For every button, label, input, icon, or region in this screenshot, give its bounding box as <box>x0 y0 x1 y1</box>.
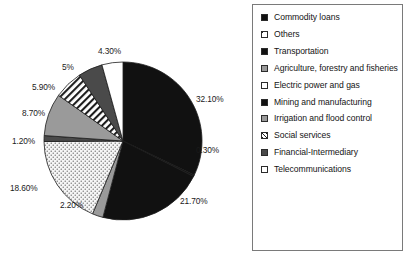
legend-item-label: Electric power and gas <box>274 80 360 90</box>
pie-slice-value-label: 18.60% <box>10 183 38 193</box>
legend-item-label: Social services <box>274 130 331 140</box>
legend-item[interactable]: Social services <box>261 130 398 140</box>
pie-slice-value-label: 0.30% <box>196 145 219 155</box>
pie-slice-value-label: 5.90% <box>32 82 55 92</box>
legend-item-label: Commodity loans <box>274 12 340 22</box>
chart-figure: 32.10%0.30%21.70%2.20%18.60%1.20%8.70%5.… <box>0 0 417 271</box>
pie-slices <box>44 62 202 220</box>
legend-swatch-icon <box>261 48 268 55</box>
legend-item[interactable]: Commodity loans <box>261 12 398 22</box>
chart-legend: Commodity loansOthersTransportationAgric… <box>252 4 403 251</box>
legend-swatch-icon <box>261 82 268 89</box>
legend-item-label: Agriculture, forestry and fisheries <box>274 63 398 73</box>
legend-swatch-icon <box>261 149 268 156</box>
legend-item[interactable]: Electric power and gas <box>261 80 398 90</box>
legend-item-label: Financial-Intermediary <box>274 147 358 157</box>
legend-item-label: Irrigation and flood control <box>274 113 372 123</box>
legend-item-label: Telecommunications <box>274 164 351 174</box>
legend-swatch-icon <box>261 166 268 173</box>
pie-slice-value-label: 2.20% <box>60 200 83 210</box>
legend-swatch-icon <box>261 132 268 139</box>
pie-chart-svg <box>0 0 250 271</box>
pie-slice-value-label: 32.10% <box>196 94 224 104</box>
pie-slice-value-label: 8.70% <box>22 108 45 118</box>
legend-item[interactable]: Mining and manufacturing <box>261 97 398 107</box>
legend-item-label: Others <box>274 29 300 39</box>
legend-item[interactable]: Others <box>261 29 398 39</box>
legend-swatch-icon <box>261 14 268 21</box>
legend-swatch-icon <box>261 31 268 38</box>
pie-chart-area: 32.10%0.30%21.70%2.20%18.60%1.20%8.70%5.… <box>0 0 250 271</box>
legend-item[interactable]: Financial-Intermediary <box>261 147 398 157</box>
pie-slice-value-label: 5% <box>62 62 74 72</box>
pie-slice-value-label: 21.70% <box>180 196 208 206</box>
legend-swatch-icon <box>261 99 268 106</box>
legend-swatch-icon <box>261 65 268 72</box>
legend-item[interactable]: Agriculture, forestry and fisheries <box>261 63 398 73</box>
legend-item[interactable]: Transportation <box>261 46 398 56</box>
legend-item[interactable]: Irrigation and flood control <box>261 113 398 123</box>
pie-slice-value-label: 1.20% <box>12 136 35 146</box>
legend-swatch-icon <box>261 115 268 122</box>
legend-item-label: Transportation <box>274 46 328 56</box>
pie-slice-value-label: 4.30% <box>98 46 121 56</box>
legend-item-label: Mining and manufacturing <box>274 97 372 107</box>
legend-item[interactable]: Telecommunications <box>261 164 398 174</box>
